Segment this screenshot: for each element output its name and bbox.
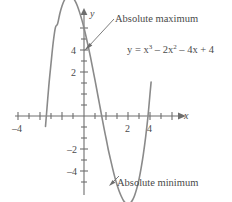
- y-axis-label: y: [90, 8, 94, 19]
- absolute-minimum-label: Absolute minimum: [117, 178, 198, 189]
- absolute-maximum-arrow: [84, 19, 114, 51]
- equation-lhs: y = x: [127, 44, 149, 55]
- equation-tail: – 4x + 4: [177, 44, 214, 55]
- y-tick-label-neg4: –4: [67, 166, 77, 177]
- graph-canvas: [0, 0, 232, 202]
- y-tick-label-2: 2: [71, 67, 76, 78]
- x-tick-label-neg4: –4: [12, 123, 22, 134]
- equation-mid: – 2x: [152, 44, 173, 55]
- y-tick-label-neg2: –2: [67, 144, 77, 155]
- absolute-maximum-label: Absolute maximum: [115, 14, 198, 25]
- x-tick-label-4: 4: [147, 123, 152, 134]
- x-tick-label-2: 2: [125, 123, 130, 134]
- figure-container: –4 2 4 4 2 –2 –4 x y Absolute maximum Ab…: [0, 0, 232, 202]
- equation-label: y = x3 – 2x2 – 4x + 4: [127, 45, 214, 56]
- function-curve: [46, 0, 152, 202]
- x-axis-label: x: [184, 110, 188, 121]
- y-tick-label-4: 4: [71, 45, 76, 56]
